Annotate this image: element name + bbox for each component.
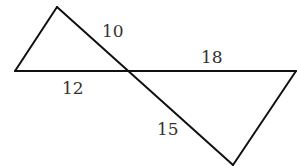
segment-right-to-bottom (233, 71, 296, 165)
label-top-to-intersection: 10 (102, 21, 124, 41)
segment-top-to-left (15, 7, 57, 71)
label-intersection-to-right: 18 (201, 47, 223, 67)
label-intersection-to-bottom: 15 (157, 119, 179, 139)
similar-triangles-diagram: 10 12 18 15 (0, 0, 297, 166)
label-left-to-intersection: 12 (62, 78, 84, 98)
